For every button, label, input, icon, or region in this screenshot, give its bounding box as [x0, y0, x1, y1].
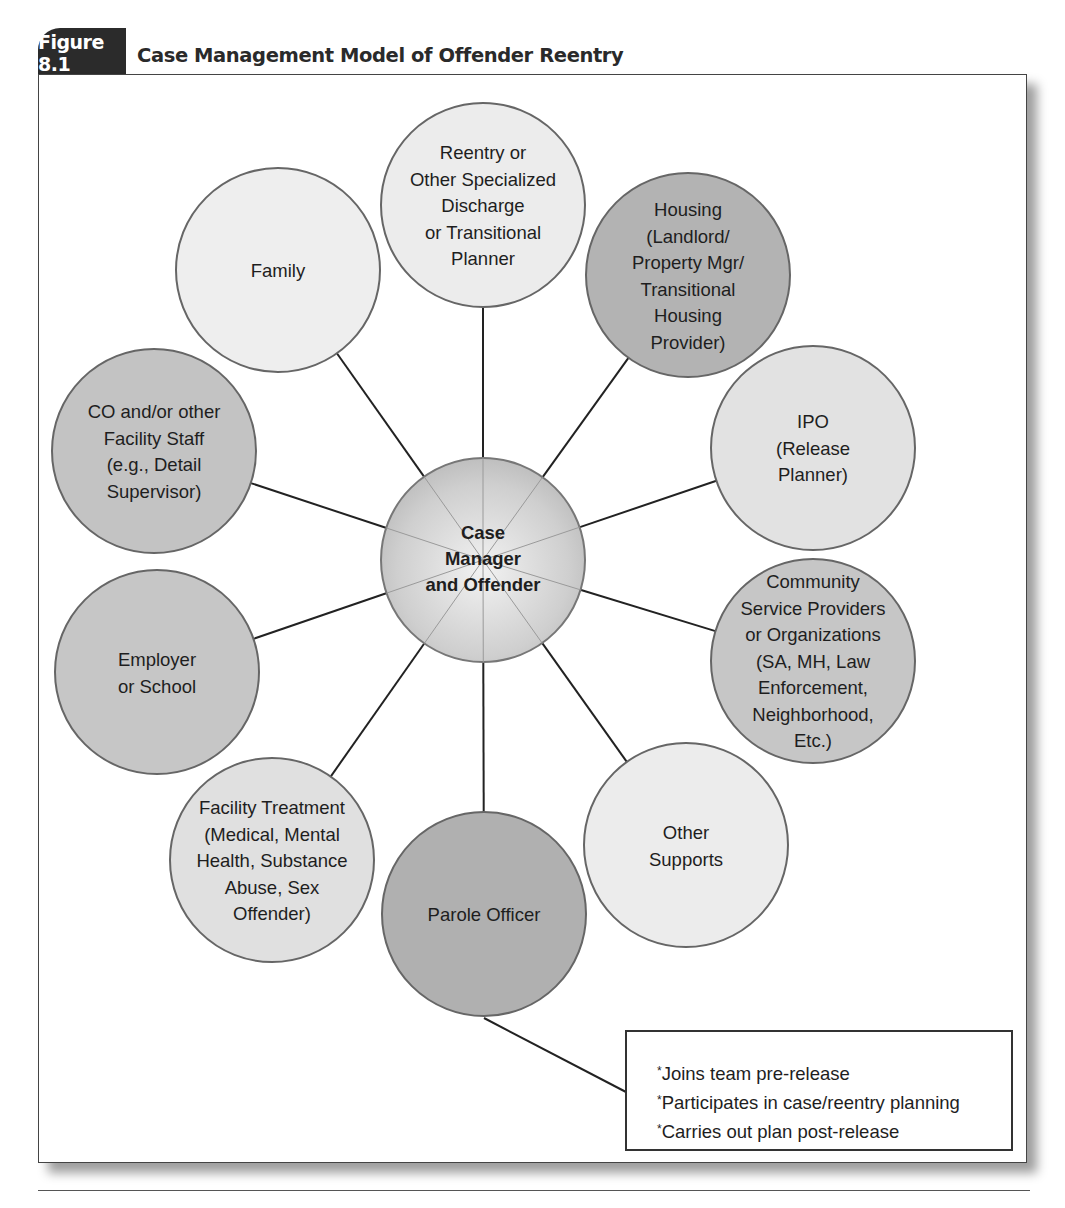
- note-item: *Carries out plan post-release: [657, 1116, 1011, 1145]
- center-label: CaseManagerand Offender: [425, 520, 540, 598]
- connector-other-supports: [541, 641, 627, 761]
- node-label-family: Family: [251, 258, 305, 285]
- connector-ipo: [578, 481, 717, 528]
- parole-officer-note: *Joins team pre-release *Participates in…: [625, 1030, 1013, 1151]
- node-label-facility-treatment: Facility Treatment(Medical, MentalHealth…: [196, 795, 347, 928]
- parole-note-connector: [484, 1018, 626, 1092]
- node-label-housing: Housing(Landlord/Property Mgr/Transition…: [632, 197, 744, 356]
- connector-family: [337, 353, 425, 478]
- connector-housing: [541, 358, 628, 479]
- node-label-parole-officer: Parole Officer: [428, 902, 541, 929]
- node-label-reentry-planner: Reentry orOther SpecializedDischargeor T…: [410, 140, 556, 273]
- node-label-employer-school: Employeror School: [118, 647, 196, 700]
- node-label-facility-staff: CO and/or otherFacility Staff(e.g., Deta…: [88, 399, 221, 505]
- connector-facility-staff: [251, 483, 388, 528]
- note-item: *Joins team pre-release: [657, 1058, 1011, 1087]
- connector-employer-school: [253, 592, 388, 638]
- connector-community-service: [579, 589, 716, 631]
- node-label-ipo: IPO(ReleasePlanner): [776, 409, 850, 489]
- note-item: *Participates in case/reentry planning: [657, 1087, 1011, 1116]
- connector-facility-treatment: [331, 642, 426, 777]
- node-label-other-supports: OtherSupports: [649, 820, 723, 873]
- node-label-community-service: CommunityService Providersor Organizatio…: [741, 569, 886, 755]
